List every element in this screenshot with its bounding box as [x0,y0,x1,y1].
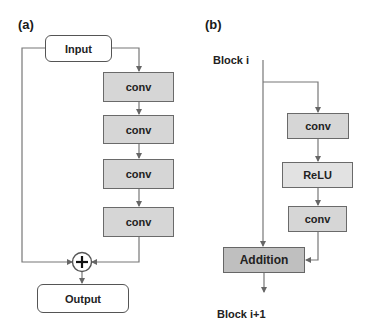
conv-layer-3: conv [103,159,174,189]
input-node: Input [45,35,112,62]
block-out-label: Block i+1 [217,308,266,320]
conv-layer-b1: conv [287,113,349,139]
conv-layer-b2: conv [288,206,347,232]
arrow-conv-to-addition [306,232,318,260]
addition-node: Addition [223,247,305,273]
panel-b-label: (b) [205,17,222,32]
output-node: Output [37,284,129,313]
skip-connection-a [22,48,72,262]
arrow-input-to-conv1 [112,48,139,71]
panel-a-label: (a) [18,17,34,32]
conv-layer-2: conv [103,115,174,144]
arrow-conv4-to-plus [92,237,139,262]
relu-layer: ReLU [282,162,353,188]
arrow-branch-to-conv [263,82,318,112]
block-in-label: Block i [213,54,249,66]
conv-layer-1: conv [103,72,174,102]
conv-layer-4: conv [103,207,174,237]
plus-icon [73,253,92,272]
